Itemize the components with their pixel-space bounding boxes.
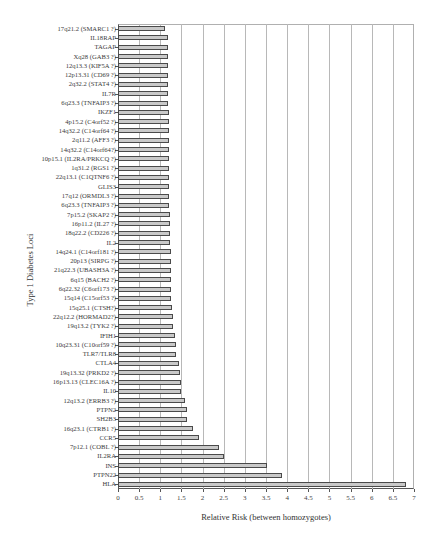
- bar: [118, 454, 224, 459]
- bar: [118, 240, 170, 245]
- category-label: IL18RAP: [90, 34, 116, 42]
- category-label: 19q13.32 (PRKD2 ?): [60, 369, 116, 377]
- x-tick-mark: [160, 489, 161, 492]
- category-label: IL2RA: [97, 452, 116, 460]
- category-label: 12q13.3 (KIF5A ?): [66, 62, 116, 70]
- bar: [118, 203, 169, 208]
- category-label: 22q12.2 (HORMAD2?): [53, 313, 116, 321]
- x-tick-mark: [203, 489, 204, 492]
- category-label: 17q21.2 (SMARC1 ?): [58, 25, 116, 33]
- x-tick-mark: [329, 489, 330, 492]
- bar: [118, 82, 168, 87]
- gridline: [245, 24, 246, 489]
- category-label: 17q12 (ORMDL3 ?): [62, 192, 116, 200]
- category-label: IL2: [106, 239, 116, 247]
- category-label: TAGAP: [95, 43, 116, 51]
- bar: [118, 324, 173, 329]
- bar: [118, 175, 169, 180]
- bar: [118, 212, 170, 217]
- x-tick-mark: [181, 489, 182, 492]
- x-tick-label: 0: [116, 494, 120, 502]
- category-label: 18q22.2 (CD226 ?): [65, 229, 116, 237]
- bar: [118, 147, 169, 152]
- bar: [118, 333, 175, 338]
- category-label: CTLA4: [95, 359, 116, 367]
- x-tick-mark: [393, 489, 394, 492]
- gridline: [287, 24, 288, 489]
- bar: [118, 35, 168, 40]
- category-label: 15q25.1 (CTSH?): [69, 304, 116, 312]
- x-tick-mark: [224, 489, 225, 492]
- category-label: TLR7/TLR8: [83, 350, 116, 358]
- category-label: 6q15 (BACH2 ?): [71, 276, 116, 284]
- x-tick-label: 7: [412, 494, 416, 502]
- x-tick-mark: [308, 489, 309, 492]
- bar: [118, 156, 169, 161]
- category-label: 7p15.2 (SKAP2 ?): [67, 211, 116, 219]
- category-label: 7p12.1 (COBL ?): [70, 443, 116, 451]
- category-label: 6q23.3 (TNFAIP3 ?): [61, 201, 116, 209]
- category-label: 16p11.2 (IL27 ?): [71, 220, 116, 228]
- bar: [118, 166, 169, 171]
- bar: [118, 45, 168, 50]
- category-label: SH2B3: [97, 415, 116, 423]
- bar: [118, 473, 282, 478]
- x-tick-mark: [118, 489, 119, 492]
- bar: [118, 119, 169, 124]
- category-label: IL10: [103, 387, 116, 395]
- bar: [118, 138, 169, 143]
- category-label: 14q32.2 (C14orf64?): [60, 146, 116, 154]
- bar: [118, 482, 406, 487]
- category-label: 2q11.2 (AFF3 ?): [72, 136, 116, 144]
- category-label: 12p13.31 (CD69 ?): [65, 71, 116, 79]
- category-label: CCR5: [100, 434, 117, 442]
- category-label: 14q32.2 (C14orf64 ?): [59, 127, 116, 135]
- x-tick-label: 0.5: [135, 494, 144, 502]
- category-label: 21q22.3 (UBASH3A ?): [54, 266, 116, 274]
- bar: [118, 398, 185, 403]
- gridline: [329, 24, 330, 489]
- bar: [118, 352, 176, 357]
- category-label: 14q24.1 (C14orf181 ?): [55, 248, 116, 256]
- bar: [118, 445, 219, 450]
- bar: [118, 259, 171, 264]
- y-axis-title: Type 1 Diabetes Loci: [25, 234, 35, 307]
- x-tick-label: 1: [159, 494, 163, 502]
- bar: [118, 110, 169, 115]
- x-tick-label: 3.5: [262, 494, 271, 502]
- category-label: 4p15.2 (C4orf52 ?): [65, 118, 116, 126]
- category-label: 16q23.1 (CTRB1 ?): [63, 425, 116, 433]
- bar: [118, 370, 180, 375]
- bar: [118, 463, 267, 468]
- category-label: 10p15.1 (IL2RA/PRKCQ ?): [41, 155, 116, 163]
- bar: [118, 249, 171, 254]
- category-label: 12q13.2 (ERRB3 ?): [63, 397, 116, 405]
- x-tick-label: 1.5: [177, 494, 186, 502]
- x-tick-label: 5.5: [346, 494, 355, 502]
- category-label: IFIH1: [100, 332, 116, 340]
- gridline: [351, 24, 352, 489]
- bar: [118, 417, 187, 422]
- x-tick-label: 2: [201, 494, 205, 502]
- x-tick-label: 4: [285, 494, 289, 502]
- category-label: 19q13.2 (TYK2 ?): [67, 322, 116, 330]
- category-label: IKZF1: [98, 108, 116, 116]
- category-label: 15q14 (C15orf53 ?): [64, 294, 116, 302]
- x-tick-label: 4.5: [304, 494, 313, 502]
- bar: [118, 296, 171, 301]
- bar: [118, 63, 168, 68]
- bar: [118, 314, 173, 319]
- category-label: 2q32.2 (STAT4 ?): [69, 80, 116, 88]
- category-label: PTPN22: [93, 471, 116, 479]
- x-tick-mark: [351, 489, 352, 492]
- bar: [118, 426, 193, 431]
- bar: [118, 184, 169, 189]
- bar: [118, 101, 168, 106]
- x-tick-mark: [287, 489, 288, 492]
- bar: [118, 91, 168, 96]
- category-label: 1q31.2 (RGS1 ?): [71, 164, 116, 172]
- category-label: Xq28 (GAB3 ?): [74, 53, 117, 61]
- bar: [118, 26, 165, 31]
- bar: [118, 435, 199, 440]
- category-label: INS: [105, 462, 116, 470]
